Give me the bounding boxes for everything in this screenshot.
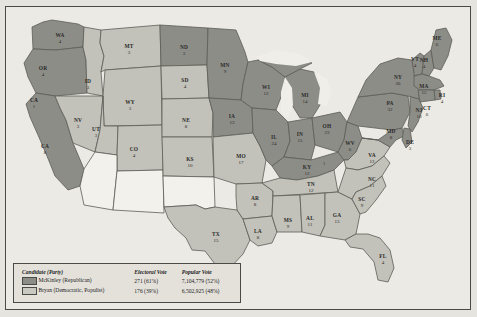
state-shape-TX[interactable] <box>164 205 250 268</box>
legend-header-row: Candidate (Party) Electoral Vote Popular… <box>20 268 234 276</box>
state-abbr-TN: TN <box>307 181 315 187</box>
state-abbr-RI: RI <box>439 92 445 98</box>
legend-row-mckinley: McKinley (Republican) 271 (61%) 7,104,77… <box>20 276 234 286</box>
state-shape-CO[interactable] <box>117 125 163 171</box>
territory-shape-NM[interactable] <box>113 170 164 213</box>
legend-popular-mckinley: 7,104,779 (52%) <box>180 276 234 286</box>
state-abbr-CA: CA <box>41 143 49 149</box>
state-abbr-MA: MA <box>419 83 428 89</box>
state-shape-NY[interactable] <box>358 58 420 99</box>
state-abbr-TX: TX <box>212 231 220 237</box>
state-abbr-FL: FL <box>379 253 386 259</box>
territory-shape-OK[interactable] <box>163 176 215 209</box>
state-label-CT: CT6 <box>423 105 431 117</box>
state-votes-NY: 36 <box>396 81 402 86</box>
state-abbr-NH: NH <box>420 57 429 63</box>
state-shape-OR[interactable] <box>24 47 87 96</box>
state-abbr-OR: OR <box>39 65 48 71</box>
state-abbr-ME: ME <box>432 35 441 41</box>
state-abbr-NJ: NJ <box>416 107 423 113</box>
state-abbr-WA: WA <box>55 32 64 38</box>
state-abbr-AL: AL <box>306 215 314 221</box>
state-abbr-NY: NY <box>394 74 402 80</box>
state-votes-MO: 17 <box>239 160 245 165</box>
legend-header-electoral: Electoral Vote <box>132 268 179 276</box>
state-abbr-WY: WY <box>125 99 135 105</box>
state-abbr-IA: IA <box>229 113 235 119</box>
state-votes-TX: 15 <box>214 238 220 243</box>
state-abbr-ID: ID <box>85 78 91 84</box>
state-votes-VA: 12 <box>370 159 376 164</box>
state-abbr-UT: UT <box>92 126 100 132</box>
state-abbr-IL: IL <box>271 134 277 140</box>
election-map-figure: WA4OR4CA8CA1NV3ID3MT3WY3UT3CO4ND3SD4NE8K… <box>0 0 477 317</box>
state-abbr-WI: WI <box>262 84 270 90</box>
state-abbr-CT: CT <box>423 105 431 111</box>
state-abbr-MN: MN <box>220 62 229 68</box>
state-abbr-KS: KS <box>186 156 194 162</box>
state-shape-AR[interactable] <box>236 183 273 219</box>
legend-header-popular: Popular Vote <box>180 268 234 276</box>
state-shape-PA[interactable] <box>347 93 410 130</box>
state-votes-DE: 3 <box>409 146 412 151</box>
split-vote-marker: 1 <box>35 97 37 102</box>
state-abbr-VT: VT <box>411 56 419 62</box>
state-votes-IL: 24 <box>272 141 278 146</box>
state-votes-AL: 11 <box>308 222 313 227</box>
state-votes-RI: 4 <box>441 99 444 104</box>
state-abbr-IN: IN <box>297 131 303 137</box>
state-abbr-SD: SD <box>181 77 188 83</box>
state-votes-TN: 12 <box>309 188 315 193</box>
map-legend: Candidate (Party) Electoral Vote Popular… <box>13 263 241 303</box>
state-abbr-MO: MO <box>236 153 246 159</box>
legend-electoral-mckinley: 271 (61%) <box>132 276 179 286</box>
state-votes-NC: 11 <box>370 183 375 188</box>
mckinley-swatch <box>22 277 37 285</box>
state-shape-DE[interactable] <box>402 128 412 148</box>
state-abbr-DE: DE <box>406 139 414 145</box>
state-abbr-AR: AR <box>251 195 259 201</box>
split-vote-marker: 1 <box>323 161 325 166</box>
state-shapes <box>24 20 452 282</box>
state-votes-MA: 15 <box>422 90 428 95</box>
legend-candidate-mckinley: McKinley (Republican) <box>20 276 132 286</box>
state-votes-IN: 15 <box>298 138 304 143</box>
state-abbr-SC: SC <box>358 196 365 202</box>
legend-candidate-bryan: Bryan (Democratic, Populist) <box>20 286 132 296</box>
state-votes-MI: 14 <box>303 99 309 104</box>
bryan-swatch <box>22 287 37 295</box>
state-abbr-MS: MS <box>284 217 293 223</box>
legend-header-candidate: Candidate (Party) <box>20 268 132 276</box>
legend-electoral-bryan: 176 (39%) <box>132 286 179 296</box>
state-abbr-MT: MT <box>124 43 133 49</box>
state-abbr-CO: CO <box>130 146 139 152</box>
state-abbr-LA: LA <box>254 228 262 234</box>
legend-candidate-label-mckinley: McKinley (Republican) <box>38 278 91 284</box>
state-votes-CT: 6 <box>426 112 429 117</box>
state-votes-KS: 10 <box>188 163 194 168</box>
legend-candidate-label-bryan: Bryan (Democratic, Populist) <box>38 288 104 294</box>
state-votes-GA: 13 <box>335 219 341 224</box>
state-abbr-WV: WV <box>345 140 355 146</box>
legend-popular-bryan: 6,502,925 (48%) <box>180 286 234 296</box>
state-votes-PA: 32 <box>388 107 394 112</box>
state-abbr-KY: KY <box>303 164 312 170</box>
legend-table: Candidate (Party) Electoral Vote Popular… <box>20 268 234 297</box>
state-abbr-VA: VA <box>368 152 376 158</box>
legend-row-bryan: Bryan (Democratic, Populist) 176 (39%) 6… <box>20 286 234 296</box>
state-votes-WI: 12 <box>264 91 270 96</box>
state-abbr-GA: GA <box>333 212 342 218</box>
state-abbr-ND: ND <box>180 44 188 50</box>
state-abbr-NC: NC <box>368 176 376 182</box>
state-abbr-OH: OH <box>323 123 332 129</box>
state-votes-NJ: 10 <box>417 114 423 119</box>
state-abbr-MI: MI <box>301 92 309 98</box>
state-abbr-MD: MD <box>386 128 395 134</box>
state-votes-KY: 12 <box>305 171 311 176</box>
state-abbr-PA: PA <box>386 100 393 106</box>
state-shape-WY[interactable] <box>103 66 162 126</box>
state-abbr-NV: NV <box>74 117 82 123</box>
territory-shape-AZ[interactable] <box>80 152 117 210</box>
state-votes-OH: 23 <box>325 130 331 135</box>
state-abbr-NE: NE <box>182 117 190 123</box>
